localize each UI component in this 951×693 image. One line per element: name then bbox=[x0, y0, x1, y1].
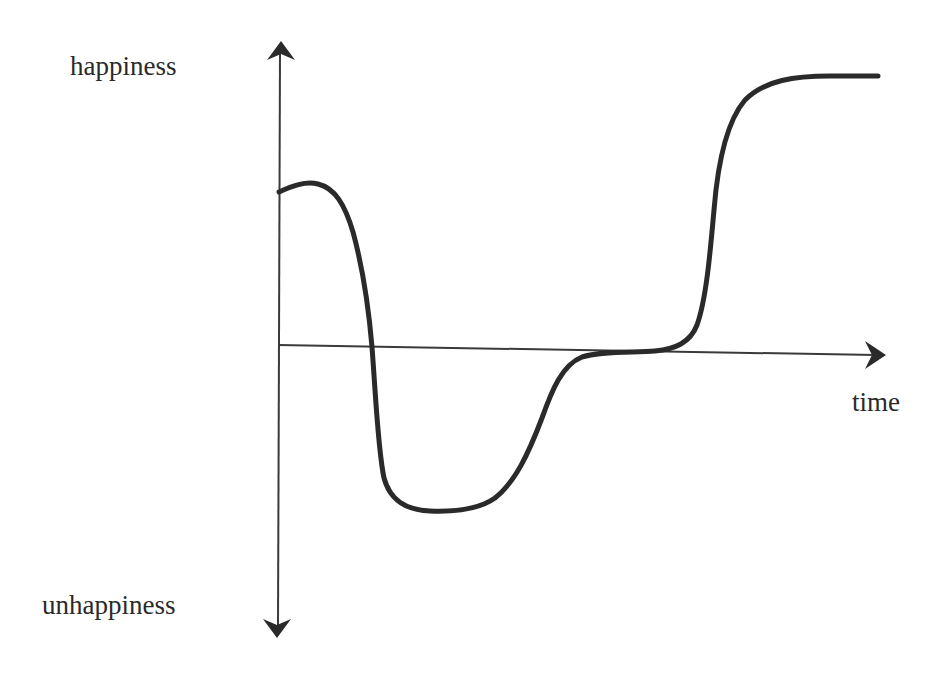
happiness-time-diagram: happiness unhappiness time bbox=[0, 0, 951, 693]
y-axis-line bbox=[278, 52, 280, 627]
y-axis-down-arrow-icon bbox=[263, 619, 291, 638]
y-axis-top-label: happiness bbox=[70, 53, 176, 80]
happiness-curve bbox=[279, 76, 878, 511]
y-axis-up-arrow-icon bbox=[267, 41, 295, 60]
x-axis-label: time bbox=[852, 389, 900, 416]
x-axis-line bbox=[278, 345, 876, 355]
y-axis-bottom-label: unhappiness bbox=[42, 592, 175, 619]
